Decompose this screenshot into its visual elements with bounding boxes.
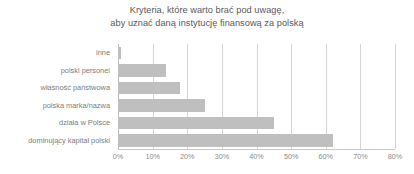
bar-row xyxy=(118,44,395,62)
x-axis-tick-label: 0% xyxy=(101,151,135,162)
bars-group xyxy=(118,44,395,149)
chart-title-line-1: Kryteria, które warto brać pod uwagę, xyxy=(0,4,414,17)
y-axis-label: dominujący kapitał polski xyxy=(0,132,114,150)
bar-row xyxy=(118,79,395,97)
x-axis-tick-label: 40% xyxy=(240,151,274,162)
bar-row xyxy=(118,97,395,115)
x-axis-tick-label: 50% xyxy=(274,151,308,162)
x-axis-tick-label: 30% xyxy=(205,151,239,162)
y-axis-label: własność państwowa xyxy=(0,79,114,97)
y-axis-label: inne xyxy=(0,44,114,62)
x-axis-tick-label: 20% xyxy=(170,151,204,162)
y-axis-category-labels: innepolski personelwłasność państwowapol… xyxy=(0,44,114,149)
x-axis-line xyxy=(118,149,395,150)
bar-row xyxy=(118,62,395,80)
bar xyxy=(118,82,180,95)
bar xyxy=(118,99,205,112)
y-axis-label: polski personel xyxy=(0,62,114,80)
bar xyxy=(118,117,274,130)
bar xyxy=(118,47,121,60)
gridline-80% xyxy=(395,44,396,149)
y-axis-label: działa w Polsce xyxy=(0,114,114,132)
x-axis-tick-label: 70% xyxy=(343,151,377,162)
chart-title-line-2: aby uznać daną instytucję finansową za p… xyxy=(0,17,414,30)
bar xyxy=(118,134,333,147)
x-axis-tick-label: 80% xyxy=(378,151,412,162)
chart-title: Kryteria, które warto brać pod uwagę, ab… xyxy=(0,4,414,30)
x-axis-tick-label: 60% xyxy=(309,151,343,162)
bar-row xyxy=(118,132,395,150)
y-axis-label: polska marka/nazwa xyxy=(0,97,114,115)
x-axis-tick-label: 10% xyxy=(136,151,170,162)
bar-chart: Kryteria, które warto brać pod uwagę, ab… xyxy=(0,0,414,174)
bar-row xyxy=(118,114,395,132)
plot-area xyxy=(118,44,395,149)
bar xyxy=(118,64,166,77)
x-axis-tick-labels: 0%10%20%30%40%50%60%70%80% xyxy=(0,151,414,167)
